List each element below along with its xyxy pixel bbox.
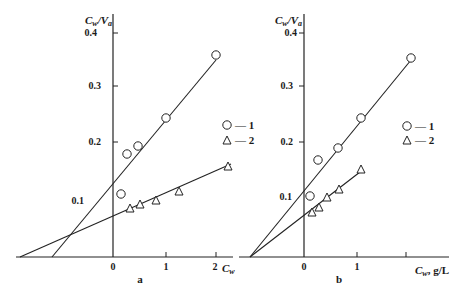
data-point-circle bbox=[123, 150, 131, 158]
data-point-circle bbox=[334, 144, 342, 152]
fit-line-series-1 bbox=[52, 60, 216, 257]
x-tick-label: 0 bbox=[302, 261, 307, 272]
data-point-circle bbox=[134, 142, 142, 150]
data-point-circle bbox=[407, 54, 415, 62]
data-point-circle bbox=[162, 114, 170, 122]
x-tick-label: 1 bbox=[355, 261, 360, 272]
legend-triangle-icon bbox=[223, 136, 231, 144]
panel-a: 0.4 0.3 0.2 0.1 Cw/Va 0 1 2 Cw a bbox=[16, 14, 235, 285]
x-tick-label: 0 bbox=[111, 261, 116, 272]
panel-b-y-label: Cw/Va bbox=[275, 14, 302, 28]
legend-circle-icon bbox=[403, 122, 411, 130]
y-tick-label: 0.1 bbox=[72, 195, 85, 206]
panel-a-y-label: Cw/Va bbox=[85, 14, 112, 28]
y-tick-label: 0.3 bbox=[281, 80, 294, 91]
y-tick-label: 0.4 bbox=[85, 27, 98, 38]
data-point-triangle bbox=[126, 204, 134, 212]
y-tick-label: 0.4 bbox=[285, 27, 298, 38]
data-point-circle bbox=[117, 190, 125, 198]
fit-line-series-2 bbox=[250, 172, 360, 257]
panel-b-x-label: Cw, g/L bbox=[415, 264, 449, 278]
panel-b: 0.4 0.3 0.2 0.1 Cw/Va 0 1 Cw, g/L b bbox=[239, 14, 449, 285]
fit-line-series-2 bbox=[20, 164, 231, 257]
data-point-triangle bbox=[308, 208, 316, 216]
legend-panel-a: — 1 — 2 bbox=[223, 119, 255, 146]
data-point-circle bbox=[314, 156, 322, 164]
legend-label-1: — 1 bbox=[414, 120, 434, 132]
legend-label-2: — 2 bbox=[234, 134, 255, 146]
y-tick-label: 0.2 bbox=[89, 136, 102, 147]
y-tick-label: 0.1 bbox=[280, 191, 293, 202]
data-point-circle bbox=[306, 192, 314, 200]
panel-b-label: b bbox=[336, 273, 342, 285]
data-point-triangle bbox=[315, 203, 323, 211]
data-point-triangle bbox=[152, 196, 160, 204]
data-point-triangle bbox=[136, 200, 144, 208]
y-tick-label: 0.3 bbox=[89, 80, 102, 91]
panel-a-x-label: Cw bbox=[222, 262, 235, 276]
data-point-circle bbox=[212, 51, 220, 59]
data-point-triangle bbox=[323, 193, 331, 201]
figure: 0.4 0.3 0.2 0.1 Cw/Va 0 1 2 Cw a bbox=[0, 0, 462, 293]
x-tick-label: 2 bbox=[213, 261, 218, 272]
panel-a-label: a bbox=[137, 273, 143, 285]
fit-line-series-1 bbox=[250, 60, 411, 257]
legend-triangle-icon bbox=[403, 136, 411, 144]
legend-panel-b: — 1 — 2 bbox=[403, 120, 435, 146]
data-point-circle bbox=[357, 114, 365, 122]
y-tick-label: 0.2 bbox=[281, 136, 294, 147]
legend-label-1: — 1 bbox=[234, 119, 254, 131]
legend-label-2: — 2 bbox=[414, 134, 435, 146]
x-tick-label: 1 bbox=[164, 261, 169, 272]
data-point-triangle bbox=[357, 165, 365, 173]
legend-circle-icon bbox=[223, 121, 231, 129]
